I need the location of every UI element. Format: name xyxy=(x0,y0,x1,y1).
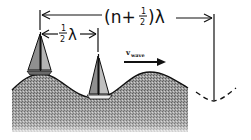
dashed-trough-extension xyxy=(196,88,236,101)
wave-diagram: (n+ 1 2 )λ 1 2 λ v wave xyxy=(0,0,251,140)
short-span-frac-den: 2 xyxy=(60,35,65,44)
long-span-label-suffix: )λ xyxy=(148,7,165,27)
long-span-frac-num: 1 xyxy=(141,7,146,16)
long-span-frac-den: 2 xyxy=(140,18,145,27)
sailboat-crest xyxy=(27,32,52,75)
velocity-subscript: wave xyxy=(130,52,145,58)
sailboat-trough xyxy=(87,54,112,99)
wave-velocity-arrow: v wave xyxy=(124,48,166,66)
short-span-frac-num: 1 xyxy=(61,24,66,33)
short-span-dimension: 1 2 λ xyxy=(42,24,98,52)
short-span-symbol: λ xyxy=(68,26,77,44)
long-span-label-prefix: (n+ xyxy=(104,7,136,27)
